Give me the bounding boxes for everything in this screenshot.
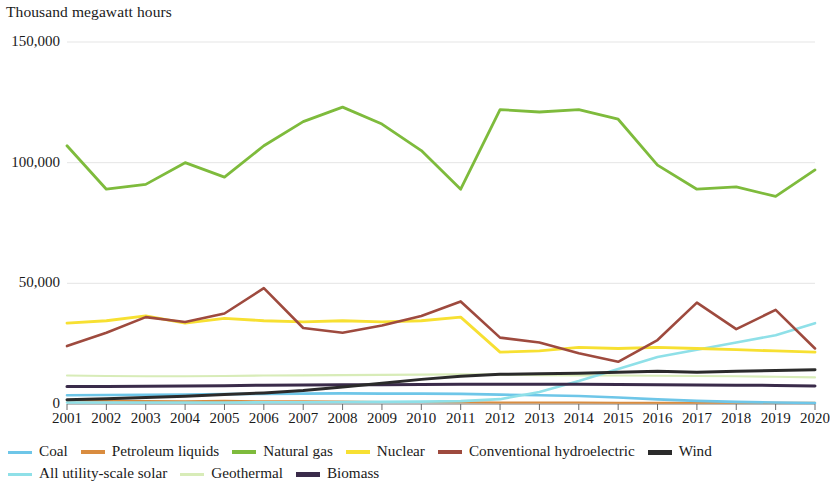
legend-item-label: Petroleum liquids: [112, 442, 220, 460]
x-axis-tick-label: 2006: [249, 410, 279, 427]
x-axis-tick-label: 2012: [485, 410, 515, 427]
legend-item-label: Natural gas: [263, 442, 333, 460]
legend-swatch-icon: [296, 472, 320, 477]
legend-swatch-icon: [8, 473, 32, 476]
legend-item-biomass[interactable]: Biomass: [296, 464, 379, 482]
x-axis-tick-label: 2009: [367, 410, 397, 427]
legend-row-secondary: All utility-scale solarGeothermalBiomass: [8, 462, 820, 484]
legend-item-nuclear[interactable]: Nuclear: [346, 442, 425, 460]
legend-item-label: Biomass: [327, 464, 379, 482]
series-line-natural-gas: [67, 107, 815, 196]
x-axis-tick-label: 2010: [406, 410, 436, 427]
x-axis-tick-label: 2015: [603, 410, 633, 427]
x-axis-labels: 2001200220032004200520062007200820092010…: [67, 410, 815, 434]
series-line-all-utility-scale-solar: [67, 323, 815, 402]
plot-area: [67, 42, 815, 404]
legend-swatch-icon: [648, 450, 672, 455]
x-axis-tick-label: 2017: [682, 410, 712, 427]
x-axis-tick-label: 2011: [446, 410, 475, 427]
series-canvas: [67, 42, 815, 404]
legend-item-label: All utility-scale solar: [39, 464, 167, 482]
legend-item-wind[interactable]: Wind: [648, 442, 712, 460]
legend-swatch-icon: [81, 450, 105, 454]
chart-legend: CoalPetroleum liquidsNatural gasNuclearC…: [8, 440, 820, 484]
x-axis-tick-label: 2001: [52, 410, 82, 427]
legend-swatch-icon: [8, 451, 32, 454]
x-axis-tick-label: 2003: [131, 410, 161, 427]
series-line-biomass: [67, 384, 815, 386]
legend-item-label: Wind: [679, 442, 712, 460]
legend-item-natural-gas[interactable]: Natural gas: [232, 442, 333, 460]
x-axis-tick-label: 2008: [328, 410, 358, 427]
legend-swatch-icon: [438, 450, 462, 454]
legend-item-conventional-hydroelectric[interactable]: Conventional hydroelectric: [438, 442, 635, 460]
legend-swatch-icon: [346, 450, 370, 454]
series-line-conventional-hydroelectric: [67, 288, 815, 362]
legend-swatch-icon: [180, 473, 204, 476]
legend-item-geothermal[interactable]: Geothermal: [180, 464, 283, 482]
x-axis-tick-label: 2013: [524, 410, 554, 427]
x-axis-tick-label: 2002: [91, 410, 121, 427]
x-axis-tick-label: 2004: [170, 410, 200, 427]
y-axis-tick-label: 50,000: [19, 274, 60, 291]
legend-item-label: Conventional hydroelectric: [469, 442, 635, 460]
legend-swatch-icon: [232, 450, 256, 454]
x-axis-tick-label: 2019: [761, 410, 791, 427]
y-axis-tick-label: 150,000: [11, 33, 60, 50]
y-axis-tick-label: 100,000: [11, 154, 60, 171]
legend-item-all-utility-scale-solar[interactable]: All utility-scale solar: [8, 464, 167, 482]
x-axis-tick-label: 2014: [564, 410, 594, 427]
legend-item-coal[interactable]: Coal: [8, 442, 68, 460]
legend-item-petroleum-liquids[interactable]: Petroleum liquids: [81, 442, 220, 460]
x-axis-tick-label: 2005: [209, 410, 239, 427]
legend-item-label: Nuclear: [377, 442, 425, 460]
x-axis-tick-label: 2020: [800, 410, 830, 427]
legend-item-label: Geothermal: [211, 464, 283, 482]
legend-row-primary: CoalPetroleum liquidsNatural gasNuclearC…: [8, 440, 820, 462]
legend-item-label: Coal: [39, 442, 68, 460]
x-axis-tick-label: 2018: [721, 410, 751, 427]
x-axis-tick-label: 2016: [643, 410, 673, 427]
x-axis-tick-label: 2007: [288, 410, 318, 427]
